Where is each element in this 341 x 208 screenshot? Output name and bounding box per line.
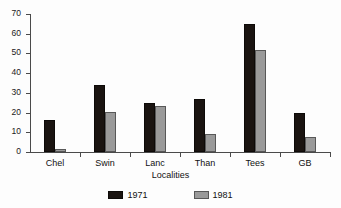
y-tick-10: 10 bbox=[26, 132, 30, 133]
chart-legend: 19711981 bbox=[0, 190, 341, 200]
x-tick-1 bbox=[80, 153, 81, 157]
bar-group-lanc bbox=[144, 103, 166, 152]
legend-item-1971: 1971 bbox=[108, 190, 147, 200]
x-label-gb: GB bbox=[280, 158, 330, 169]
y-tick-label-50: 50 bbox=[12, 48, 21, 57]
y-tick-0: 0 bbox=[26, 152, 30, 153]
bar-group-swin bbox=[94, 85, 116, 152]
y-tick-20: 20 bbox=[26, 113, 30, 114]
x-axis-title: Localities bbox=[0, 170, 341, 180]
bar-lanc-1971 bbox=[144, 103, 155, 152]
bar-tees-1981 bbox=[255, 50, 266, 153]
bar-than-1971 bbox=[194, 99, 205, 152]
y-tick-label-0: 0 bbox=[16, 147, 21, 156]
bar-gb-1981 bbox=[305, 137, 316, 152]
x-tick-2 bbox=[130, 153, 131, 157]
y-tick-40: 40 bbox=[26, 73, 30, 74]
x-label-lanc: Lanc bbox=[130, 158, 180, 169]
x-tick-4 bbox=[230, 153, 231, 157]
x-label-than: Than bbox=[180, 158, 230, 169]
y-tick-label-40: 40 bbox=[12, 68, 21, 77]
bar-group-chel bbox=[44, 120, 66, 152]
bar-chart-figure: 010203040506070 ChelSwinLancThanTeesGB L… bbox=[0, 0, 341, 208]
bar-swin-1981 bbox=[105, 112, 116, 152]
y-tick-60: 60 bbox=[26, 34, 30, 35]
bar-than-1981 bbox=[205, 134, 216, 152]
legend-label-1971: 1971 bbox=[127, 190, 147, 200]
legend-swatch-1971 bbox=[108, 191, 123, 199]
y-tick-label-20: 20 bbox=[12, 108, 21, 117]
y-tick-label-70: 70 bbox=[12, 9, 21, 18]
bar-lanc-1981 bbox=[155, 106, 166, 152]
bar-chel-1981 bbox=[55, 149, 66, 152]
legend-swatch-1981 bbox=[194, 191, 209, 199]
y-tick-label-10: 10 bbox=[12, 127, 21, 136]
x-label-swin: Swin bbox=[80, 158, 130, 169]
legend-item-1981: 1981 bbox=[194, 190, 233, 200]
bar-tees-1971 bbox=[244, 24, 255, 152]
bar-chel-1971 bbox=[44, 120, 55, 152]
x-tick-3 bbox=[180, 153, 181, 157]
bar-group-gb bbox=[294, 113, 316, 152]
bar-group-than bbox=[194, 99, 216, 152]
bar-gb-1971 bbox=[294, 113, 305, 152]
x-tick-5 bbox=[280, 153, 281, 157]
legend-label-1981: 1981 bbox=[213, 190, 233, 200]
x-label-tees: Tees bbox=[230, 158, 280, 169]
bar-swin-1971 bbox=[94, 85, 105, 152]
y-tick-50: 50 bbox=[26, 53, 30, 54]
x-tick-6 bbox=[330, 153, 331, 157]
bar-group-tees bbox=[244, 24, 266, 152]
y-tick-30: 30 bbox=[26, 93, 30, 94]
y-tick-70: 70 bbox=[26, 14, 30, 15]
plot-area: 010203040506070 bbox=[30, 14, 330, 152]
y-tick-label-30: 30 bbox=[12, 88, 21, 97]
x-label-chel: Chel bbox=[30, 158, 80, 169]
y-tick-label-60: 60 bbox=[12, 29, 21, 38]
